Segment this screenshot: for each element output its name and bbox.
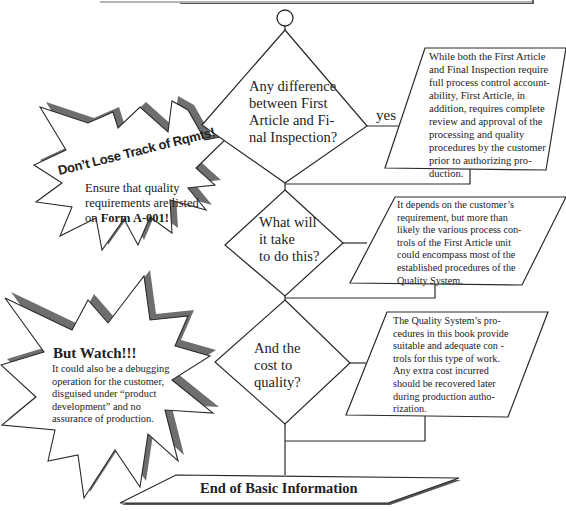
answer-1-text: While both the First Article and Final I… xyxy=(429,50,550,180)
decision-2-text: What will it take to do this? xyxy=(259,214,319,265)
yes-branch-label: yes xyxy=(376,107,396,124)
form-reference: Form A-001! xyxy=(101,211,169,225)
end-label: End of Basic Information xyxy=(200,480,358,497)
answer-3-text: The Quality System’s pro- cedures in thi… xyxy=(393,315,508,416)
top-bar xyxy=(100,0,533,4)
answer-2-text: It depends on the customer’s requirement… xyxy=(397,199,521,287)
start-node-circle xyxy=(277,10,293,26)
callout-2-title: But Watch!!! xyxy=(53,345,136,362)
callout-1-body: Ensure that quality requirements are lis… xyxy=(85,181,199,226)
decision-3-text: And the cost to quality? xyxy=(254,340,301,391)
decision-1-text: Any difference between First Article and… xyxy=(249,78,337,146)
callout-2-body: It could also be a debugging operation f… xyxy=(52,363,169,426)
